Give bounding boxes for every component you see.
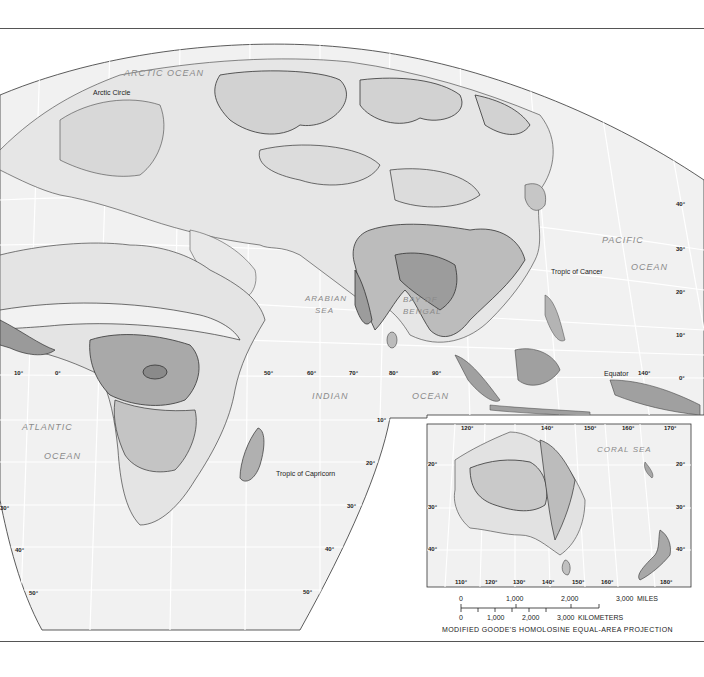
lon-label: 80° — [389, 370, 398, 376]
inset-lat-right: 40° — [676, 546, 685, 552]
inset-lon-bottom: 140° — [542, 579, 554, 585]
lat-label: 20° — [366, 460, 375, 466]
scale-km-2000: 2,000 — [522, 614, 540, 621]
inset-lon-top: 120° — [461, 425, 473, 431]
lat-label: 30° — [347, 503, 356, 509]
lat-label: 40° — [325, 546, 334, 552]
scale-km-unit: KILOMETERS — [578, 614, 623, 621]
lat-label: 30° — [0, 505, 9, 511]
arctic-circle-label: Arctic Circle — [93, 89, 130, 96]
indian-ocean-label-1: INDIAN — [312, 391, 349, 401]
pacific-ocean-label-2: OCEAN — [631, 262, 668, 272]
lon-label: 70° — [349, 370, 358, 376]
scale-miles-3000: 3,000 — [616, 595, 634, 602]
inset-lon-bottom: 130° — [513, 579, 525, 585]
tropic-of-capricorn-label: Tropic of Capricorn — [276, 470, 335, 477]
inset-lat-right: 30° — [676, 504, 685, 510]
inset-lon-bottom: 160° — [601, 579, 613, 585]
scale-miles-unit: MILES — [637, 595, 658, 602]
map-canvas — [0, 0, 704, 677]
lat-label: 40° — [676, 201, 685, 207]
atlantic-ocean-label-1: ATLANTIC — [22, 422, 73, 432]
inset-lon-bottom: 110° — [455, 579, 467, 585]
lon-label: 60° — [307, 370, 316, 376]
inset-lon-top: 150° — [584, 425, 596, 431]
lat-label: 50° — [29, 590, 38, 596]
scale-miles-0: 0 — [459, 595, 463, 602]
atlantic-ocean-label-2: OCEAN — [44, 451, 81, 461]
arabian-sea-label-1: ARABIAN — [305, 294, 347, 303]
arabian-sea-label-2: SEA — [315, 306, 334, 315]
inset-lat-left: 40° — [428, 546, 437, 552]
pacific-ocean-label-1: PACIFIC — [602, 235, 644, 245]
lat-label: 20° — [676, 289, 685, 295]
inset-lon-bottom: 180° — [660, 579, 672, 585]
inset-lon-top: 160° — [622, 425, 634, 431]
inset-lat-right: 20° — [676, 461, 685, 467]
inset-lon-bottom: 150° — [572, 579, 584, 585]
indian-ocean-label-2: OCEAN — [412, 391, 449, 401]
scale-km-3000: 3,000 — [557, 614, 575, 621]
tropic-of-cancer-label: Tropic of Cancer — [551, 268, 602, 275]
arctic-ocean-label: ARCTIC OCEAN — [124, 68, 204, 78]
lat-label: 10° — [377, 417, 386, 423]
lat-label: 0° — [679, 375, 685, 381]
scale-bar — [461, 604, 599, 612]
lon-label: 140° — [638, 370, 650, 376]
inset-lon-top: 170° — [664, 425, 676, 431]
lon-label: 0° — [55, 370, 61, 376]
lat-label: 50° — [303, 589, 312, 595]
lon-label: 90° — [432, 370, 441, 376]
lat-label: 30° — [676, 246, 685, 252]
lon-label: 50° — [264, 370, 273, 376]
scale-miles-2000: 2,000 — [561, 595, 579, 602]
inset-lat-left: 20° — [428, 461, 437, 467]
scale-km-0: 0 — [459, 614, 463, 621]
lon-label: 10° — [14, 370, 23, 376]
coral-sea-label: CORAL SEA — [597, 445, 652, 454]
inset-lon-top: 140° — [541, 425, 553, 431]
bay-of-bengal-label-2: BENGAL — [403, 307, 441, 316]
lat-label: 40° — [15, 547, 24, 553]
lat-label: 10° — [676, 332, 685, 338]
inset-lat-left: 30° — [428, 504, 437, 510]
equator-label: Equator — [604, 370, 629, 377]
inset-lon-bottom: 120° — [485, 579, 497, 585]
projection-label: MODIFIED GOODE'S HOMOLOSINE EQUAL-AREA P… — [442, 626, 673, 633]
scale-km-1000: 1,000 — [487, 614, 505, 621]
scale-miles-1000: 1,000 — [506, 595, 524, 602]
bay-of-bengal-label-1: BAY OF — [403, 295, 438, 304]
